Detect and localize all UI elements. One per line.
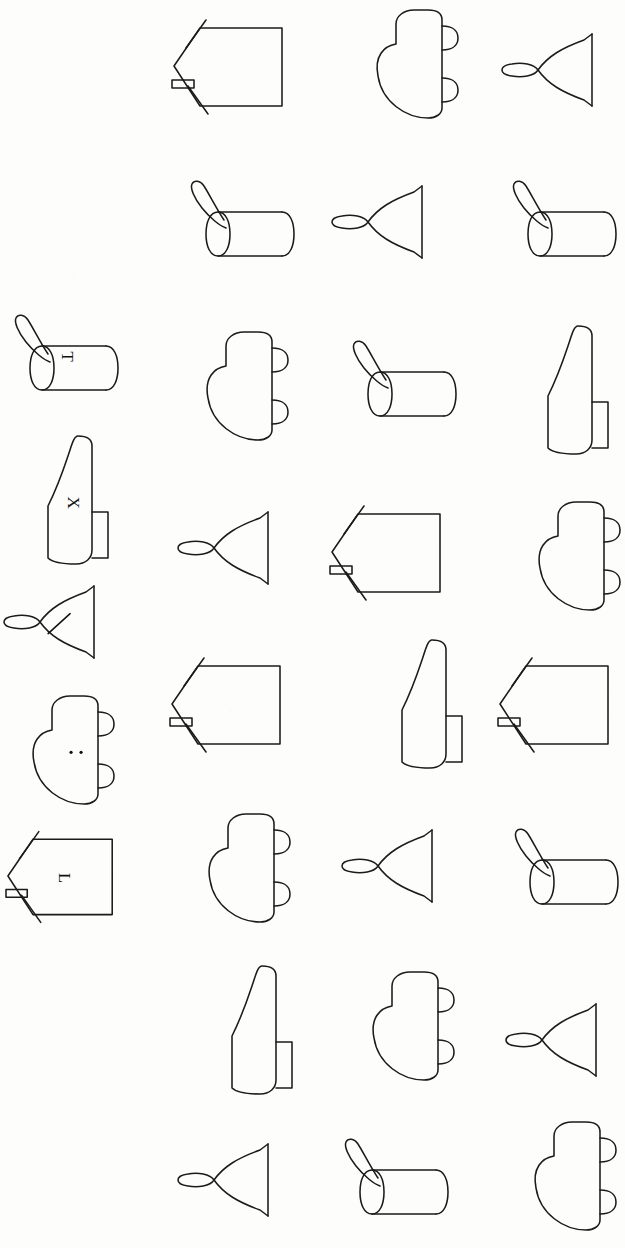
grid-item-r2c3-cylinder-shape[interactable] bbox=[508, 178, 618, 264]
grid-item-r5c2-boot-shape[interactable] bbox=[382, 636, 470, 772]
cylinder-shape-outline bbox=[191, 181, 294, 256]
car-shape-outline bbox=[209, 814, 290, 922]
grid-item-r1c1-house-shape[interactable] bbox=[172, 14, 288, 118]
cylinder-shape-outline bbox=[345, 1139, 448, 1214]
grid-item-r8c3-car-shape[interactable] bbox=[524, 1118, 625, 1234]
cylinder-shape-outline bbox=[513, 181, 616, 256]
car-shape-outline bbox=[207, 332, 288, 440]
grid-item-r6c1-car-shape[interactable] bbox=[198, 810, 302, 926]
grid-item-r3c2-cylinder-shape[interactable] bbox=[348, 338, 458, 424]
probe-item-2-boot-shape[interactable]: X bbox=[28, 432, 116, 568]
grid-item-r3c1-car-shape[interactable] bbox=[196, 328, 300, 444]
house-shape-outline bbox=[498, 658, 608, 752]
car-shape-outline bbox=[539, 502, 620, 610]
car-shape-outline bbox=[377, 10, 458, 118]
car-shape-outline bbox=[535, 1122, 616, 1230]
bell-shape-outline bbox=[4, 586, 94, 658]
probe-item-4-car-shape[interactable] bbox=[22, 692, 126, 808]
grid-item-r5c1-house-shape[interactable] bbox=[170, 652, 286, 756]
boot-shape-outline bbox=[402, 640, 462, 768]
orientation-mark-letter: X bbox=[64, 497, 83, 509]
cylinder-shape-outline bbox=[353, 341, 456, 416]
orientation-mark-dot-1 bbox=[69, 751, 72, 754]
bell-shape-outline bbox=[342, 830, 432, 902]
probe-item-3-bell-shape[interactable] bbox=[2, 582, 106, 662]
probe-item-1-cylinder-shape[interactable]: T bbox=[10, 312, 120, 398]
grid-item-r5c3-house-shape[interactable] bbox=[498, 652, 614, 756]
orientation-mark-letter: T bbox=[58, 352, 77, 363]
cylinder-shape-outline bbox=[515, 829, 618, 904]
grid-item-r8c1-bell-shape[interactable] bbox=[176, 1140, 280, 1220]
orientation-mark-dot-2 bbox=[79, 751, 82, 754]
grid-item-r7c2-car-shape[interactable] bbox=[362, 968, 466, 1084]
grid-item-r7c1-boot-shape[interactable] bbox=[212, 962, 300, 1098]
bell-shape-outline bbox=[502, 34, 592, 106]
grid-item-r2c2-bell-shape[interactable] bbox=[330, 182, 434, 262]
grid-item-r7c3-bell-shape[interactable] bbox=[504, 1000, 608, 1080]
grid-item-r6c3-cylinder-shape[interactable] bbox=[510, 826, 620, 912]
house-shape-outline bbox=[170, 658, 280, 752]
probe-item-5-house-shape[interactable]: L bbox=[6, 822, 118, 930]
bell-shape-outline bbox=[332, 186, 422, 258]
grid-item-r4c2-house-shape[interactable] bbox=[330, 500, 446, 604]
grid-item-r1c2-car-shape[interactable] bbox=[366, 6, 470, 122]
grid-item-r3c3-boot-shape[interactable] bbox=[528, 322, 616, 458]
car-shape-outline bbox=[33, 696, 114, 804]
boot-shape-outline bbox=[548, 326, 608, 454]
bell-shape-outline bbox=[506, 1004, 596, 1076]
grid-item-r4c3-car-shape[interactable] bbox=[528, 498, 625, 614]
grid-item-r4c1-bell-shape[interactable] bbox=[176, 508, 280, 588]
orientation-mark-letter: L bbox=[55, 873, 74, 883]
car-shape-outline bbox=[373, 972, 454, 1080]
house-shape-outline bbox=[330, 506, 440, 600]
grid-item-r1c3-bell-shape[interactable] bbox=[500, 30, 604, 110]
bell-shape-outline bbox=[178, 512, 268, 584]
grid-item-r2c1-cylinder-shape[interactable] bbox=[186, 178, 296, 264]
house-shape-outline bbox=[172, 20, 282, 114]
boot-shape-outline bbox=[232, 966, 292, 1094]
bell-shape-outline bbox=[178, 1144, 268, 1216]
grid-item-r8c2-cylinder-shape[interactable] bbox=[340, 1136, 450, 1222]
grid-item-r6c2-bell-shape[interactable] bbox=[340, 826, 444, 906]
orientation-mark-slash bbox=[48, 614, 70, 634]
